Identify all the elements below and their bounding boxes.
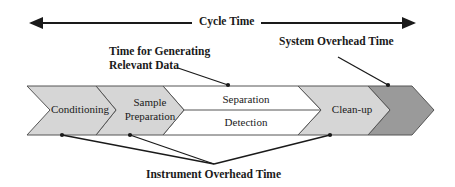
- instrument-pointer-sample-prep: [130, 135, 214, 164]
- sample-label: Sample: [134, 96, 167, 108]
- detection-label: Detection: [225, 116, 268, 128]
- instrument-pointer-cleanup: [214, 135, 330, 164]
- system-overhead-label: System Overhead Time: [279, 35, 394, 47]
- instrument-pointer-conditioning: [62, 135, 214, 164]
- preparation-label: Preparation: [125, 110, 176, 122]
- instrument-overhead-label: Instrument Overhead Time: [146, 168, 281, 180]
- cycle-time-label: Cycle Time: [199, 15, 254, 27]
- system-overhead-pointer: [338, 57, 388, 85]
- separation-label: Separation: [222, 93, 269, 105]
- relevant-data-label-line1: Time for Generating: [109, 45, 210, 57]
- relevant-data-pointer: [178, 68, 228, 85]
- relevant-data-label-line2: Relevant Data: [109, 59, 179, 71]
- conditioning-label: Conditioning: [51, 103, 109, 115]
- clean-up-label: Clean-up: [332, 103, 372, 115]
